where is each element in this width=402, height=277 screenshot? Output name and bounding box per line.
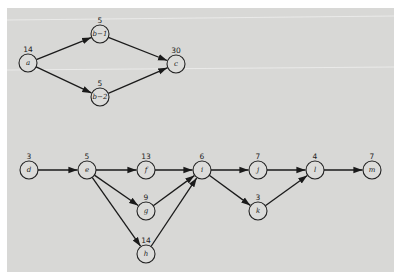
node-d: d3	[20, 152, 38, 180]
node-b1: b−15	[91, 16, 109, 44]
nodes-group: a14b−15b−25c30d3e5f13g9h14i6j7k3l4m7	[19, 16, 381, 264]
node-label: a	[26, 59, 30, 67]
node-label: b−2	[93, 93, 108, 101]
scan-streak	[7, 16, 394, 20]
node-f: f13	[137, 152, 155, 180]
node-label: g	[144, 207, 149, 215]
scan-streak	[7, 67, 394, 70]
duration-label: 13	[141, 152, 151, 161]
node-k: k3	[249, 193, 267, 221]
duration-label: 5	[85, 152, 90, 161]
node-e: e5	[78, 152, 96, 180]
node-label: i	[201, 166, 203, 174]
node-l: l4	[306, 152, 324, 180]
node-label: l	[314, 166, 316, 174]
duration-label: 14	[23, 45, 33, 54]
duration-label: 7	[256, 152, 261, 161]
edge-k-to-l	[265, 176, 307, 206]
node-label: k	[256, 207, 260, 215]
node-label: m	[369, 166, 376, 174]
duration-label: 14	[141, 236, 151, 245]
node-c: c30	[167, 46, 185, 74]
duration-label: 7	[370, 152, 375, 161]
edge-a-to-b2	[36, 67, 91, 93]
duration-label: 5	[98, 16, 103, 25]
node-label: e	[85, 166, 89, 174]
edge-h-to-i	[151, 178, 197, 247]
duration-label: 5	[98, 79, 103, 88]
node-label: c	[174, 60, 178, 68]
edge-a-to-b1	[36, 38, 91, 60]
node-h: h14	[137, 236, 155, 264]
node-label: b−1	[93, 30, 108, 38]
duration-label: 4	[313, 152, 318, 161]
activity-network-diagram: a14b−15b−25c30d3e5f13g9h14i6j7k3l4m7	[0, 0, 402, 277]
duration-label: 9	[144, 193, 149, 202]
duration-label: 3	[27, 152, 32, 161]
node-b2: b−25	[91, 79, 109, 107]
node-g: g9	[137, 193, 155, 221]
duration-label: 3	[256, 193, 261, 202]
node-j: j7	[249, 152, 267, 180]
edge-b2-to-c	[108, 68, 167, 94]
node-label: h	[144, 250, 149, 258]
edge-e-to-h	[92, 177, 140, 246]
duration-label: 30	[171, 46, 181, 55]
node-label: d	[27, 166, 32, 174]
duration-label: 6	[200, 152, 205, 161]
edge-b1-to-c	[108, 37, 167, 60]
node-a: a14	[19, 45, 37, 73]
node-m: m7	[363, 152, 381, 180]
edge-i-to-k	[209, 175, 250, 205]
node-i: i6	[193, 152, 211, 180]
